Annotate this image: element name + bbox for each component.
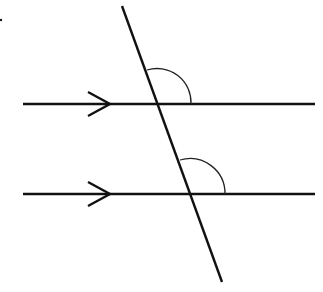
lower-angle-arc: [180, 159, 225, 194]
transversal-line: [122, 6, 222, 282]
stray-dot: [0, 19, 2, 21]
diagram-canvas: [0, 0, 323, 292]
upper-angle-arc: [147, 68, 191, 104]
